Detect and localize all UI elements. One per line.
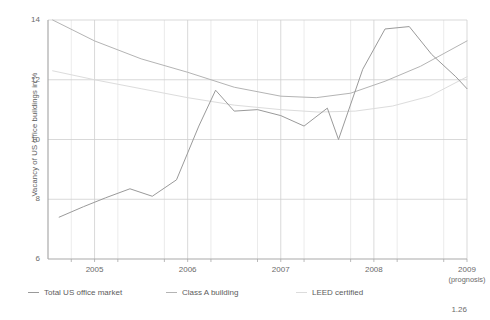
series-line	[59, 27, 467, 218]
plot-area	[48, 20, 467, 259]
x-axis-tick-label-year: 2005	[86, 265, 104, 274]
legend-label: Class A building	[182, 288, 238, 297]
legend-label: LEED certified	[312, 288, 363, 297]
x-axis-tick-label: 2008	[339, 265, 409, 275]
x-axis-tick-label: 2005	[60, 265, 130, 275]
x-axis-tick-label-year: 2008	[365, 265, 383, 274]
y-axis-tick-label: 12	[10, 76, 40, 84]
figure-number: 1.26	[451, 305, 467, 314]
legend-line-icon	[296, 292, 307, 293]
series-line	[53, 71, 467, 112]
x-axis-tick-label: 2009(prognosis)	[432, 265, 490, 284]
x-axis-tick-label: 2007	[246, 265, 316, 275]
x-axis-tick-label: 2006	[153, 265, 223, 275]
legend-line-icon	[166, 292, 177, 293]
x-axis-tick-sublabel: (prognosis)	[432, 275, 490, 284]
y-axis-tick-label: 14	[10, 16, 40, 24]
x-axis-tick-label-year: 2006	[179, 265, 197, 274]
legend-item[interactable]: Total US office market	[28, 288, 122, 297]
legend-item[interactable]: LEED certified	[296, 288, 363, 297]
chart-legend: Total US office marketClass A buildingLE…	[0, 288, 479, 304]
legend-item[interactable]: Class A building	[166, 288, 238, 297]
chart-svg	[48, 20, 467, 259]
legend-line-icon	[28, 292, 39, 293]
x-axis-tick-label-year: 2007	[272, 265, 290, 274]
x-axis-tick-label-year: 2009	[458, 265, 476, 274]
y-axis-tick-label: 10	[10, 136, 40, 144]
y-axis-tick-label: 8	[10, 195, 40, 203]
y-axis-tick-label: 6	[10, 255, 40, 263]
legend-label: Total US office market	[44, 288, 122, 297]
series-line	[53, 20, 467, 98]
